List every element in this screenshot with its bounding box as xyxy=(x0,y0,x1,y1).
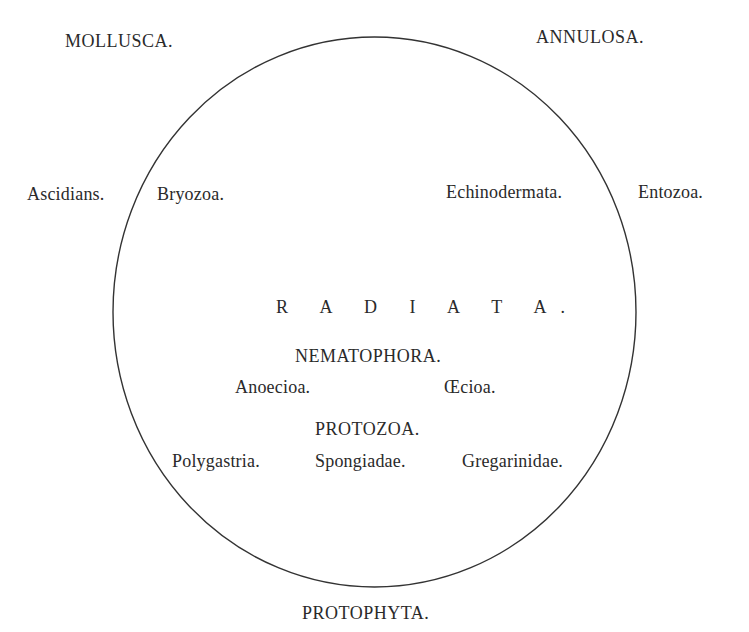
label-gregarinidae: Gregarinidae. xyxy=(462,451,563,471)
label-nematophora: NEMATOPHORA. xyxy=(295,346,441,366)
label-entozoa: Entozoa. xyxy=(638,182,703,202)
label-polygastria: Polygastria. xyxy=(172,451,260,471)
label-radiata: R A D I A T A. xyxy=(276,297,579,317)
label-ascidians: Ascidians. xyxy=(27,184,105,204)
label-protophyta: PROTOPHYTA. xyxy=(302,603,429,623)
label-echinodermata: Echinodermata. xyxy=(446,182,562,202)
label-bryozoa: Bryozoa. xyxy=(157,184,224,204)
label-annulosa: ANNULOSA. xyxy=(536,27,644,47)
label-mollusca: MOLLUSCA. xyxy=(65,31,173,51)
label-anoecioa: Anoecioa. xyxy=(235,377,310,397)
label-protozoa: PROTOZOA. xyxy=(315,419,420,439)
label-spongiadae: Spongiadae. xyxy=(315,451,406,471)
label-oecioa: Œcioa. xyxy=(444,377,496,397)
